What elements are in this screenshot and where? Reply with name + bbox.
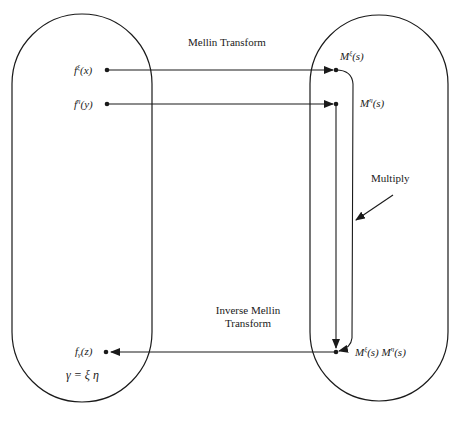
f-eta-arg: (y) <box>81 98 93 110</box>
mellin-transform-label: Mellin Transform <box>188 37 266 48</box>
multiply-pointer-arrow <box>356 195 393 220</box>
product-a-base: M <box>355 346 364 358</box>
inverse-mellin-label: Inverse Mellin Transform <box>200 305 296 329</box>
dot-product <box>334 350 339 355</box>
dot-f-eta <box>105 102 110 107</box>
M-xi-label: Mξ(s) <box>340 50 364 62</box>
product-a-arg: (s) <box>367 346 379 358</box>
right-domain-capsule <box>310 15 448 401</box>
M-eta-label: Mη(s) <box>360 97 384 109</box>
f-gamma-arg: (z) <box>81 345 93 357</box>
M-xi-arg: (s) <box>352 50 364 62</box>
f-xi-label: fξ(x) <box>74 64 92 76</box>
dot-f-xi <box>105 68 110 73</box>
f-eta-label: fη(y) <box>74 98 93 110</box>
product-b-base: M <box>382 346 391 358</box>
M-xi-base: M <box>340 50 349 62</box>
f-gamma-label: fγ(z) <box>75 346 92 359</box>
multiply-label: Multiply <box>371 173 410 184</box>
M-eta-base: M <box>360 97 369 109</box>
product-label: Mξ(s) Mη(s) <box>355 346 406 358</box>
inverse-mellin-label-line1: Inverse Mellin <box>200 305 296 316</box>
product-b-arg: (s) <box>394 346 406 358</box>
M-eta-arg: (s) <box>373 97 385 109</box>
multiply-path-xi <box>336 70 353 351</box>
inverse-mellin-label-line2: Transform <box>200 318 296 329</box>
f-xi-arg: (x) <box>80 64 92 76</box>
dot-f-gamma <box>104 350 109 355</box>
gamma-relation: γ = ξ η <box>66 369 99 381</box>
diagram-canvas <box>0 0 460 422</box>
